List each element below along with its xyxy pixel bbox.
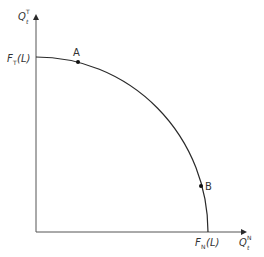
svg-text:T: T (25, 8, 30, 15)
point-b-marker (199, 184, 203, 188)
svg-text:N: N (247, 234, 252, 241)
svg-text:Q: Q (239, 237, 247, 248)
ppf-curve (36, 57, 208, 232)
y-intercept-label: F T (L) (7, 53, 30, 66)
x-intercept-label: F N (L) (195, 237, 219, 250)
point-a-marker (76, 60, 80, 64)
svg-text:t: t (247, 244, 250, 251)
x-axis-label: Q N t (239, 234, 252, 251)
svg-text:N: N (201, 243, 206, 250)
point-b-label: B (205, 181, 212, 192)
svg-text:(L): (L) (206, 237, 219, 248)
ppf-diagram: A B Q T t F T (L) F N (L) Q N t (0, 0, 264, 257)
svg-text:Q: Q (18, 11, 26, 22)
y-axis-label: Q T t (18, 8, 30, 25)
svg-text:t: t (26, 18, 29, 25)
point-a-label: A (73, 47, 80, 58)
svg-text:(L): (L) (17, 53, 30, 64)
